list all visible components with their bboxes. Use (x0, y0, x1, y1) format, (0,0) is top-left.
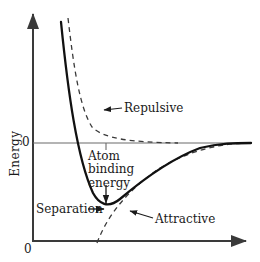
plot-canvas (0, 0, 260, 262)
repulsive-curve (68, 18, 178, 143)
atom-binding-energy-line-2: binding (88, 163, 134, 176)
origin-label: 0 (24, 243, 32, 256)
repulsive-leader-line (104, 108, 122, 110)
attractive-leader-line (130, 211, 153, 218)
repulsive-curve-label: Repulsive (124, 102, 183, 115)
separation-label: Separation (36, 203, 103, 216)
atom-binding-energy-line-1: Atom (88, 150, 134, 163)
y-axis-label: Energy (9, 126, 22, 182)
interatomic-potential-energy-figure: Energy 0 0 Repulsive Attractive Separati… (0, 0, 260, 262)
atom-binding-energy-line-3: energy (88, 177, 134, 190)
attractive-curve-label: Attractive (155, 213, 215, 226)
atom-binding-energy-label: Atom binding energy (88, 150, 134, 190)
y-axis-zero-tick-label: 0 (22, 136, 30, 149)
